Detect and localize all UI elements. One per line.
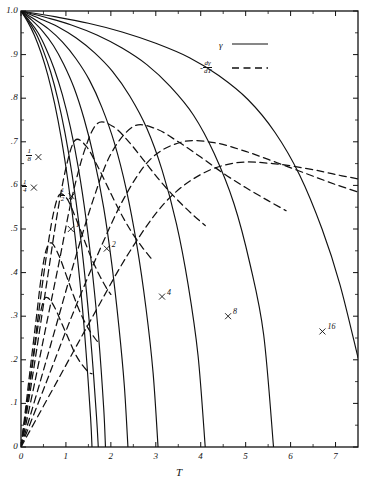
curve-gamma-1over2 [21, 11, 105, 447]
legend-denominator: dT [203, 68, 212, 75]
label-1over8-fraction: 18 [26, 148, 32, 164]
label-1over8-denominator: 8 [26, 156, 32, 163]
y-tick-label-10: 1.0 [0, 5, 18, 15]
plot-canvas [0, 0, 368, 488]
legend-fraction: dγdT [203, 60, 212, 76]
y-tick-label-4: .4 [0, 267, 18, 277]
x-tick-label-3: 3 [146, 451, 166, 461]
curve-gamma-16 [21, 11, 358, 358]
x-tick-label-6: 6 [281, 451, 301, 461]
label-1over2-fraction: 12 [60, 187, 66, 203]
curve-gamma-8 [21, 11, 274, 447]
y-tick-label-3: .3 [0, 310, 18, 320]
y-tick-label-0: 0 [0, 441, 18, 451]
label-1over4: 14 [22, 179, 28, 195]
y-tick-label-5: .5 [0, 223, 18, 233]
legend-label-gamma: γ [219, 40, 223, 50]
label-1over4-fraction: 14 [22, 179, 28, 195]
label-1over8: 18 [26, 148, 32, 164]
y-tick-label-7: .7 [0, 136, 18, 146]
curve-dgamma-2 [21, 122, 205, 447]
label-1: 1 [76, 220, 80, 229]
curve-dgamma-1over4 [21, 243, 98, 447]
label-4: 4 [167, 288, 171, 297]
label-1over4-denominator: 4 [22, 187, 28, 194]
curve-gamma-2 [21, 11, 158, 447]
x-tick-label-1: 1 [56, 451, 76, 461]
x-tick-label-5: 5 [236, 451, 256, 461]
y-tick-label-2: .2 [0, 354, 18, 364]
x-tick-label-7: 7 [326, 451, 346, 461]
curve-gamma-1over4 [21, 11, 98, 447]
x-tick-label-2: 2 [101, 451, 121, 461]
x-tick-label-0: 0 [11, 451, 31, 461]
label-1over2-denominator: 2 [60, 196, 66, 203]
x-tick-label-4: 4 [191, 451, 211, 461]
legend-label-neg-d-gamma-dT: -dγdT [200, 60, 212, 76]
label-16: 16 [327, 322, 335, 331]
label-1over2: 12 [60, 187, 66, 203]
plot-frame [21, 11, 358, 447]
label-8: 8 [233, 307, 237, 316]
curve-dgamma-4 [21, 125, 286, 447]
x-axis-title: T [176, 466, 182, 478]
y-tick-label-8: .8 [0, 92, 18, 102]
y-tick-label-9: .9 [0, 49, 18, 59]
label-2: 2 [112, 240, 116, 249]
figure-gamma-curves: 0.1.2.3.4.5.6.7.8.91.0 01234567 18141212… [0, 0, 368, 488]
y-tick-label-1: .1 [0, 397, 18, 407]
y-tick-label-6: .6 [0, 179, 18, 189]
